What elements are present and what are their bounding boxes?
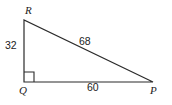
side-length-label-qp: 60	[87, 82, 99, 93]
side-length-label-rp: 68	[79, 36, 91, 47]
side-length-label-rq: 32	[5, 40, 17, 51]
right-angle-marker-icon	[24, 72, 34, 82]
vertex-label-q: Q	[19, 85, 27, 96]
triangle-outline	[24, 20, 153, 82]
triangle-figure: R Q P 32 68 60	[0, 0, 172, 105]
vertex-label-p: P	[150, 85, 157, 96]
vertex-label-r: R	[25, 5, 32, 16]
